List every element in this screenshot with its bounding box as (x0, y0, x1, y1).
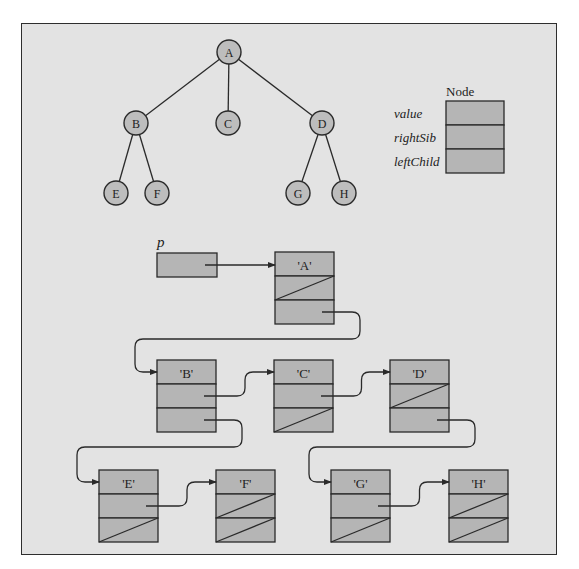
tree-node-label: A (225, 47, 234, 59)
tree-node-label: E (112, 188, 119, 200)
legend-node-box (446, 101, 504, 173)
tree-node-label: C (224, 118, 232, 130)
list-node-value: 'D' (412, 367, 426, 380)
legend-cell-rightSib (446, 125, 504, 149)
legend-cell-value (446, 101, 504, 125)
tree-edge-A-D (229, 52, 322, 123)
tree-node-label: H (340, 188, 349, 200)
list-node-value: 'G' (353, 477, 367, 490)
legend-field-value: value (394, 107, 422, 120)
tree-node-label: B (132, 118, 140, 130)
tree-edge-A-B (136, 52, 229, 123)
list-node-value: 'B' (180, 367, 193, 380)
list-node-value: 'H' (471, 477, 485, 490)
tree-node-label: D (318, 118, 327, 130)
legend-field-leftchild: leftChild (394, 155, 440, 168)
legend-field-rightsib: rightSib (394, 131, 436, 144)
legend-cell-leftChild (446, 149, 504, 173)
list-node-value: 'E' (122, 477, 135, 490)
legend-title: Node (446, 85, 474, 98)
tree-node-label: G (294, 188, 303, 200)
list-node-value: 'A' (297, 259, 311, 272)
list-nodes (99, 252, 508, 542)
tree-node-label: F (154, 188, 161, 200)
pointer-label: p (157, 235, 165, 250)
diagram-canvas (0, 0, 579, 569)
list-node-value: 'F' (240, 477, 252, 490)
list-node-value: 'C' (297, 367, 310, 380)
